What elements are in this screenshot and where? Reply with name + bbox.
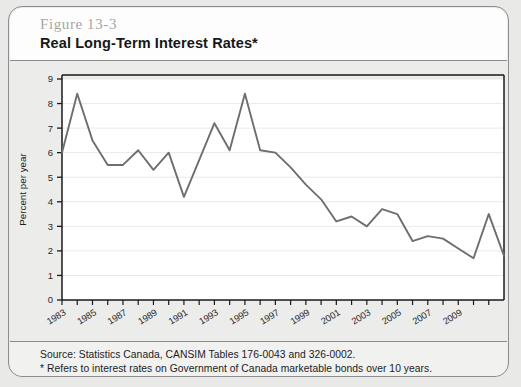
chart-plot-area: 0123456789Percent per year19831985198719… xyxy=(9,61,508,341)
x-tick-label: 1983 xyxy=(45,307,68,326)
x-tick-label: 1999 xyxy=(289,307,312,326)
y-tick-label: 8 xyxy=(48,98,53,109)
y-tick-label: 5 xyxy=(48,172,53,183)
y-tick-label: 9 xyxy=(48,73,53,84)
x-tick-label: 1987 xyxy=(106,307,129,326)
page-title: Real Long-Term Interest Rates* xyxy=(40,34,507,53)
x-tick-label: 1985 xyxy=(75,307,98,326)
y-tick-label: 2 xyxy=(48,245,53,256)
plot-background xyxy=(62,79,504,300)
figure-number: Figure 13-3 xyxy=(40,15,507,33)
figure-card: Figure 13-3 Real Long-Term Interest Rate… xyxy=(8,6,509,377)
y-tick-label: 6 xyxy=(48,147,53,158)
y-axis-title: Percent per year xyxy=(17,153,28,226)
x-tick-label: 1993 xyxy=(197,307,220,326)
y-tick-label: 4 xyxy=(48,196,53,207)
x-tick-label: 1989 xyxy=(136,307,159,326)
figure-caption-block: Source: Statistics Canada, CANSIM Tables… xyxy=(10,342,507,376)
y-tick-label: 0 xyxy=(48,294,53,305)
y-tick-label: 7 xyxy=(48,123,53,134)
y-tick-label: 3 xyxy=(48,221,53,232)
y-tick-label: 1 xyxy=(48,270,53,281)
x-tick-label: 2009 xyxy=(441,307,464,326)
figure-title-block: Figure 13-3 Real Long-Term Interest Rate… xyxy=(10,8,507,60)
line-chart: 0123456789Percent per year19831985198719… xyxy=(9,61,508,341)
x-tick-label: 2007 xyxy=(411,307,434,326)
x-tick-label: 1991 xyxy=(167,307,190,326)
x-tick-label: 2003 xyxy=(350,307,373,326)
x-tick-label: 1997 xyxy=(258,307,281,326)
x-tick-label: 2005 xyxy=(380,307,403,326)
x-tick-label: 1995 xyxy=(228,307,251,326)
source-text: Source: Statistics Canada, CANSIM Tables… xyxy=(40,348,507,362)
x-tick-label: 2001 xyxy=(319,307,342,326)
footnote-text: * Refers to interest rates on Government… xyxy=(40,362,507,376)
